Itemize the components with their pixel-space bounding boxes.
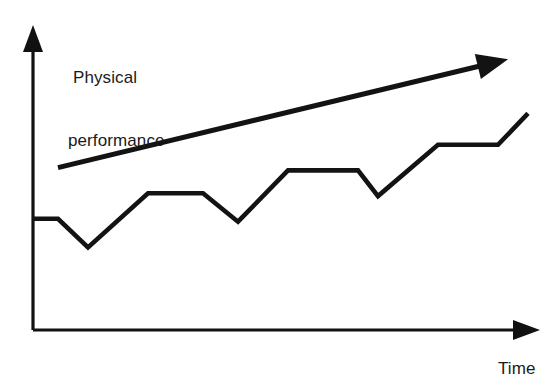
y-axis-label-line-2: performance	[68, 130, 165, 151]
chart-figure: Physical performance Time	[0, 0, 558, 387]
y-axis-label-line-1: Physical	[68, 67, 165, 88]
x-axis-arrowhead-icon	[513, 320, 540, 340]
y-axis-label: Physical performance	[68, 25, 165, 193]
trend-arrowhead-icon	[475, 54, 508, 79]
y-axis-arrowhead-icon	[23, 25, 43, 52]
x-axis-label: Time	[498, 358, 536, 379]
